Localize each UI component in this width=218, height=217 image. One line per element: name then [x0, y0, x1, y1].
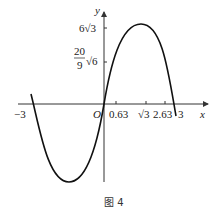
y-tick-label-6sqrt3: 6√3 — [79, 22, 97, 34]
tick-label-sqrt3: √3 — [138, 108, 150, 120]
y-tick-frac-den: 9 — [77, 59, 83, 71]
function-graph: y x O −3 0.63 √3 2.63 3 6√3 20 9 √6 图 4 — [0, 0, 218, 217]
tick-label-2.63: 2.63 — [153, 108, 173, 120]
y-tick-frac-rad: √6 — [86, 55, 98, 67]
x-axis-label: x — [199, 108, 205, 120]
tick-label-3: 3 — [178, 108, 184, 120]
tick-label-neg3: −3 — [14, 108, 26, 120]
tick-label-0.63: 0.63 — [109, 108, 129, 120]
figure-caption: 图 4 — [104, 197, 124, 208]
y-axis-label: y — [94, 4, 100, 16]
origin-label: O — [93, 108, 101, 120]
y-tick-frac-num: 20 — [74, 45, 86, 57]
